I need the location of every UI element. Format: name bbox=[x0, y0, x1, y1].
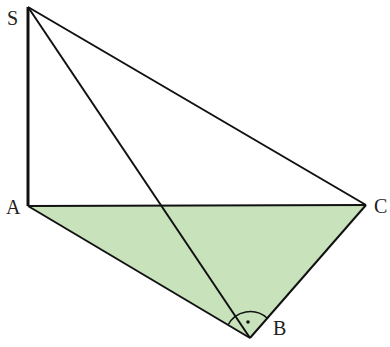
edge-ac bbox=[28, 205, 366, 206]
pyramid-diagram: S A B C bbox=[0, 0, 390, 347]
label-b: B bbox=[273, 318, 286, 338]
label-s: S bbox=[7, 8, 18, 28]
base-face-abc bbox=[28, 205, 366, 338]
label-c: C bbox=[374, 196, 387, 216]
right-angle-dot bbox=[246, 320, 250, 324]
label-a: A bbox=[6, 197, 20, 217]
edge-sc bbox=[28, 7, 366, 205]
diagram-svg bbox=[0, 0, 390, 347]
edge-sb bbox=[28, 7, 250, 338]
